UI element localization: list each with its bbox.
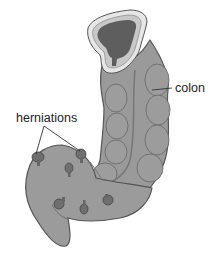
colon-illustration: [0, 0, 215, 255]
colon-body: [26, 40, 170, 246]
herniations-label: herniations: [16, 112, 77, 125]
colon-diagram: colon herniations: [0, 0, 215, 255]
colon-label: colon: [175, 82, 205, 95]
